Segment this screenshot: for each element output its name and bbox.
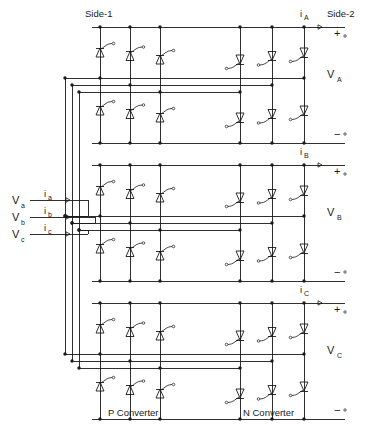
gate-terminal xyxy=(172,49,175,52)
thyristor-gate-lead xyxy=(260,256,271,262)
thyristor-gate-lead xyxy=(260,118,271,124)
gate-terminal xyxy=(257,202,260,205)
output-terminal xyxy=(344,133,346,135)
gate-terminal xyxy=(225,125,228,128)
junction-dot xyxy=(238,301,241,304)
junction-dot xyxy=(128,279,131,282)
thyristor-gate-lead xyxy=(131,323,142,329)
gate-terminal xyxy=(112,42,115,45)
thyristor-gate-lead xyxy=(292,390,303,396)
gate-terminal xyxy=(289,394,292,397)
gate-terminal xyxy=(289,336,292,339)
junction-dot xyxy=(238,163,241,166)
junction-dot xyxy=(270,417,273,420)
thyristor-gate-lead xyxy=(101,44,112,50)
junction-dot xyxy=(270,141,273,144)
gate-terminal xyxy=(225,263,228,266)
junction-dot xyxy=(158,279,161,282)
thyristor-gate-lead xyxy=(161,247,172,253)
output-terminal xyxy=(344,409,346,411)
thyristor-gate-lead xyxy=(228,63,239,69)
junction-dot xyxy=(158,25,161,28)
gate-terminal xyxy=(172,325,175,328)
thyristor-gate-lead xyxy=(101,320,112,326)
junction-dot xyxy=(302,163,305,166)
junction-dot xyxy=(98,25,101,28)
junction-dot xyxy=(98,279,101,282)
junction-dot xyxy=(70,221,73,224)
gate-terminal xyxy=(172,187,175,190)
junction-dot xyxy=(63,214,66,217)
gate-terminal xyxy=(289,60,292,63)
gate-terminal xyxy=(225,343,228,346)
gate-terminal xyxy=(112,318,115,321)
junction-dot xyxy=(302,25,305,28)
gate-terminal xyxy=(172,107,175,110)
gate-terminal xyxy=(142,104,145,107)
thyristor-gate-lead xyxy=(161,327,172,333)
thyristor-gate-lead xyxy=(131,243,142,249)
gate-terminal xyxy=(142,380,145,383)
gate-terminal xyxy=(257,122,260,125)
gate-terminal xyxy=(289,118,292,121)
thyristor-gate-lead xyxy=(161,189,172,195)
gate-terminal xyxy=(112,100,115,103)
thyristor-gate-lead xyxy=(228,397,239,403)
gate-terminal xyxy=(225,67,228,70)
thyristor-gate-lead xyxy=(292,252,303,258)
thyristor-gate-lead xyxy=(292,114,303,120)
junction-dot xyxy=(238,417,241,420)
junction-dot xyxy=(77,228,80,231)
gate-terminal xyxy=(225,205,228,208)
circuit-canvas xyxy=(0,0,370,437)
junction-dot xyxy=(270,279,273,282)
gate-terminal xyxy=(142,46,145,49)
junction-dot xyxy=(128,301,131,304)
junction-dot xyxy=(270,25,273,28)
thyristor-gate-lead xyxy=(292,56,303,62)
gate-terminal xyxy=(257,340,260,343)
junction-dot xyxy=(238,141,241,144)
gate-terminal xyxy=(142,242,145,245)
output-terminal xyxy=(344,311,346,313)
thyristor-gate-lead xyxy=(161,51,172,57)
thyristor-gate-lead xyxy=(228,259,239,265)
thyristor-gate-lead xyxy=(101,378,112,384)
junction-dot xyxy=(238,25,241,28)
gate-terminal xyxy=(142,184,145,187)
thyristor-gate-lead xyxy=(228,201,239,207)
thyristor-gate-lead xyxy=(260,198,271,204)
gate-terminal xyxy=(289,198,292,201)
junction-dot xyxy=(128,141,131,144)
gate-terminal xyxy=(112,180,115,183)
thyristor-gate-lead xyxy=(131,105,142,111)
output-terminal xyxy=(344,173,346,175)
thyristor-gate-lead xyxy=(101,240,112,246)
gate-terminal xyxy=(257,260,260,263)
junction-dot xyxy=(302,417,305,420)
output-terminal xyxy=(344,35,346,37)
thyristor-gate-lead xyxy=(131,47,142,53)
gate-terminal xyxy=(112,238,115,241)
junction-dot xyxy=(302,301,305,304)
thyristor-gate-lead xyxy=(161,109,172,115)
thyristor-gate-lead xyxy=(101,102,112,108)
thyristor-gate-lead xyxy=(260,336,271,342)
output-terminal xyxy=(344,271,346,273)
junction-dot xyxy=(270,163,273,166)
gate-terminal xyxy=(289,256,292,259)
gate-terminal xyxy=(172,383,175,386)
junction-dot xyxy=(302,279,305,282)
thyristor-gate-lead xyxy=(292,194,303,200)
junction-dot xyxy=(238,279,241,282)
junction-dot xyxy=(98,163,101,166)
cycloconverter-diagram: Side-1 Side-2 P Converter N Converter V … xyxy=(0,0,370,437)
junction-dot xyxy=(158,417,161,420)
gate-terminal xyxy=(142,322,145,325)
thyristor-gate-lead xyxy=(292,332,303,338)
thyristor-gate-lead xyxy=(101,182,112,188)
thyristor-gate-lead xyxy=(260,394,271,400)
junction-dot xyxy=(158,141,161,144)
junction-dot xyxy=(302,141,305,144)
junction-dot xyxy=(128,417,131,420)
